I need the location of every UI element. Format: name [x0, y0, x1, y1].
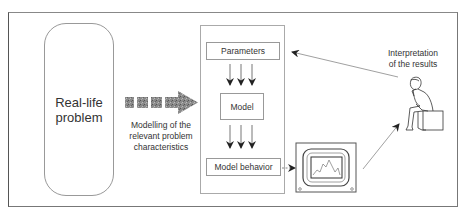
modelling-arrow-icon — [125, 91, 198, 114]
monitor-to-person-arrow-icon — [363, 124, 399, 169]
monitor-with-graph-icon — [296, 143, 356, 192]
triple-down-arrows-icon — [230, 64, 252, 85]
triple-down-arrows-icon — [230, 125, 252, 148]
diagram-graphics — [0, 0, 465, 212]
thinking-person-icon — [406, 77, 443, 130]
feedback-arrow-icon — [292, 52, 398, 77]
